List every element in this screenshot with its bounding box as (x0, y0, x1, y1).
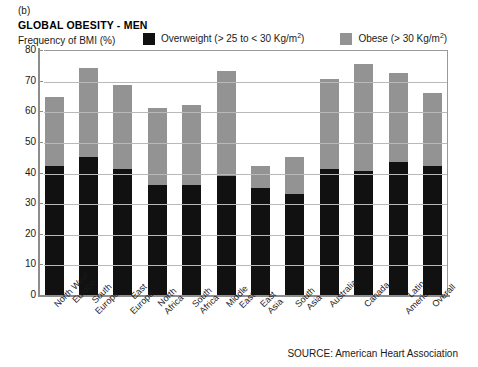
bar-segment-obese[interactable] (217, 71, 236, 175)
bar-segment-overweight[interactable] (354, 171, 373, 295)
y-tick-label-80: 80 (2, 44, 36, 55)
gridline-20 (44, 235, 447, 236)
source-note: SOURCE: American Heart Association (287, 348, 458, 359)
bar-segment-obese[interactable] (320, 79, 339, 169)
bar-segment-obese[interactable] (423, 93, 442, 167)
y-tick-label-70: 70 (2, 75, 36, 86)
y-tick-mark-60 (38, 111, 43, 112)
gridline-70 (44, 82, 447, 83)
y-tick-mark-30 (38, 203, 43, 204)
y-tick-label-20: 20 (2, 228, 36, 239)
y-tick-mark-80 (38, 50, 43, 51)
gridline-40 (44, 174, 447, 175)
bar-segment-obese[interactable] (45, 97, 64, 166)
legend-obese: Obese (> 30 Kg/m2) (340, 33, 447, 45)
legend-obese-label: Obese (> 30 Kg/m2) (358, 33, 447, 45)
chart-title: GLOBAL OBESITY - MEN (18, 19, 148, 31)
bar-segment-overweight[interactable] (182, 185, 201, 295)
y-tick-label-40: 40 (2, 167, 36, 178)
bar-segment-overweight[interactable] (423, 166, 442, 295)
legend-overweight: Overweight (> 25 to < 30 Kg/m2) (143, 33, 304, 45)
bar-segment-obese[interactable] (389, 73, 408, 162)
bar-segment-obese[interactable] (251, 166, 270, 187)
legend-overweight-label: Overweight (> 25 to < 30 Kg/m2) (161, 33, 304, 45)
bar-segment-overweight[interactable] (389, 162, 408, 295)
bar-segment-overweight[interactable] (148, 185, 167, 295)
y-tick-label-30: 30 (2, 197, 36, 208)
plot-area (44, 50, 448, 295)
y-tick-label-10: 10 (2, 258, 36, 269)
bar-segment-overweight[interactable] (113, 169, 132, 295)
y-axis-ticks: 01020304050607080 (0, 50, 36, 295)
panel-label: (b) (18, 5, 30, 16)
y-tick-mark-40 (38, 173, 43, 174)
gridline-30 (44, 204, 447, 205)
y-tick-label-50: 50 (2, 136, 36, 147)
bar-segment-obese[interactable] (113, 85, 132, 169)
legend-overweight-swatch-icon (143, 33, 155, 45)
chart-legend: Overweight (> 25 to < 30 Kg/m2)Obese (> … (143, 33, 447, 45)
bar-segment-obese[interactable] (354, 64, 373, 171)
y-tick-mark-10 (38, 264, 43, 265)
y-tick-label-60: 60 (2, 105, 36, 116)
bar-segment-overweight[interactable] (45, 166, 64, 295)
y-tick-label-0: 0 (2, 289, 36, 300)
y-tick-mark-0 (38, 295, 43, 296)
legend-obese-swatch-icon (340, 33, 352, 45)
gridline-10 (44, 265, 447, 266)
y-tick-mark-20 (38, 234, 43, 235)
y-tick-mark-50 (38, 142, 43, 143)
bar-segment-obese[interactable] (285, 157, 304, 194)
gridline-50 (44, 143, 447, 144)
gridline-60 (44, 112, 447, 113)
bar-segment-overweight[interactable] (320, 169, 339, 295)
y-tick-mark-70 (38, 81, 43, 82)
bar-segment-overweight[interactable] (285, 194, 304, 295)
